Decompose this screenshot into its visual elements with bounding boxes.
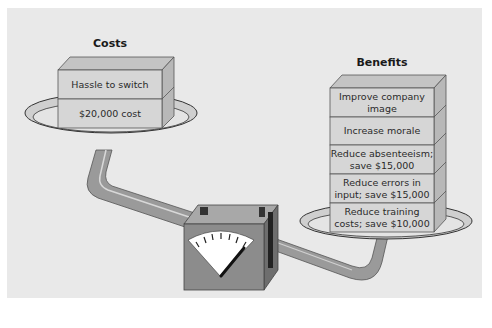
cost-item: $20,000 cost [58, 99, 162, 128]
benefits-heading: Benefits [352, 56, 412, 69]
benefit-item: Improve company image [334, 88, 430, 117]
cost-benefit-scale-diagram: Costs Benefits Hassle to switch $20,000 … [0, 0, 492, 328]
benefit-item: Reduce training costs; save $10,000 [330, 203, 434, 232]
benefit-item: Reduce errors in input; save $15,000 [330, 174, 434, 203]
right-arm [262, 234, 388, 280]
cost-item: Hassle to switch [58, 70, 162, 99]
benefit-item: Increase morale [334, 117, 430, 145]
costs-heading: Costs [80, 37, 140, 50]
scale-gauge-icon [184, 205, 278, 290]
benefit-item: Reduce absenteeism; save $15,000 [330, 145, 434, 174]
